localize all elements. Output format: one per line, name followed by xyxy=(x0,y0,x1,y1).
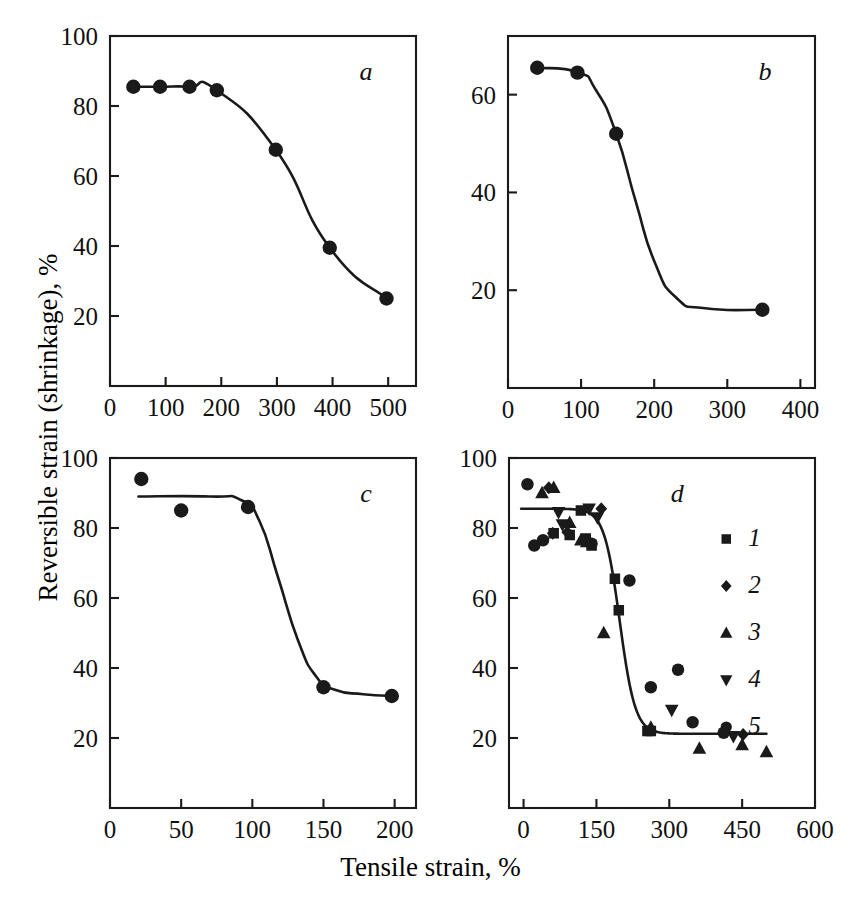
x-ticklabel-a-1: 100 xyxy=(147,394,185,421)
y-ticklabel-c-4: 100 xyxy=(61,445,99,472)
datapoint-a-a-5 xyxy=(323,241,337,255)
datapoint-d-1-6 xyxy=(614,605,625,616)
legend-label-5: 5 xyxy=(748,712,761,739)
figure-canvas: 010020030040050020406080100a010020030040… xyxy=(0,0,861,902)
y-ticklabel-d-3: 80 xyxy=(472,515,497,542)
y-ticklabel-d-2: 60 xyxy=(472,585,497,612)
x-ticklabel-c-3: 150 xyxy=(305,816,343,843)
legend-label-2: 2 xyxy=(748,571,761,598)
datapoint-d-5-7 xyxy=(686,716,698,728)
datapoint-a-a-0 xyxy=(126,80,140,94)
datapoint-d-3-7 xyxy=(693,741,707,753)
datapoint-d-5-3 xyxy=(585,538,597,550)
legend-marker-4 xyxy=(720,675,732,686)
datapoint-b-b-1 xyxy=(570,65,584,79)
y-ticklabel-d-1: 40 xyxy=(472,655,497,682)
x-ticklabel-a-5: 500 xyxy=(369,394,407,421)
datapoint-d-4-0 xyxy=(552,507,566,519)
x-ticklabel-c-2: 100 xyxy=(234,816,272,843)
y-ticklabel-c-0: 20 xyxy=(73,725,98,752)
legend-label-4: 4 xyxy=(748,665,761,692)
y-ticklabel-a-4: 100 xyxy=(61,23,99,50)
legend-label-3: 3 xyxy=(747,618,761,645)
panel-letter-d: d xyxy=(671,479,685,508)
datapoint-d-5-4 xyxy=(623,574,635,586)
datapoint-d-2-4 xyxy=(737,728,749,741)
x-ticklabel-a-4: 400 xyxy=(314,394,352,421)
y-ticklabel-d-4: 100 xyxy=(460,445,498,472)
x-axis-title-text: Tensile strain, % xyxy=(340,852,520,882)
x-ticklabel-b-2: 200 xyxy=(635,396,673,423)
x-ticklabel-d-2: 300 xyxy=(651,816,689,843)
trend-curve-b xyxy=(537,68,762,310)
y-axis-title: Reversible strain (shrinkage), % xyxy=(33,148,64,708)
y-ticklabel-b-2: 60 xyxy=(471,82,496,109)
x-ticklabel-d-4: 600 xyxy=(796,816,834,843)
x-ticklabel-a-3: 300 xyxy=(258,394,296,421)
legend-marker-5 xyxy=(721,721,732,732)
panel-b: 0100200300400204060b xyxy=(471,36,819,423)
datapoint-d-5-5 xyxy=(645,681,657,693)
trend-curve-c xyxy=(138,496,394,696)
x-axis-title: Tensile strain, % xyxy=(0,852,861,883)
x-ticklabel-b-1: 100 xyxy=(562,396,600,423)
datapoint-a-a-3 xyxy=(210,83,224,97)
legend-marker-3 xyxy=(720,627,732,638)
panel-letter-a: a xyxy=(360,57,373,86)
datapoint-d-5-0 xyxy=(521,478,533,490)
datapoint-c-c-1 xyxy=(174,503,188,517)
y-ticklabel-c-2: 60 xyxy=(73,585,98,612)
y-ticklabel-a-0: 20 xyxy=(73,303,98,330)
datapoint-d-5-6 xyxy=(672,664,684,676)
legend-label-1: 1 xyxy=(748,524,761,551)
datapoint-b-b-0 xyxy=(530,61,544,75)
datapoint-c-c-3 xyxy=(316,680,330,694)
datapoint-d-3-8 xyxy=(735,738,749,750)
datapoint-d-5-2 xyxy=(537,534,549,546)
datapoint-b-b-3 xyxy=(755,303,769,317)
datapoint-a-a-4 xyxy=(269,143,283,157)
datapoint-d-1-5 xyxy=(610,573,621,584)
y-ticklabel-a-2: 60 xyxy=(73,163,98,190)
datapoint-d-4-3 xyxy=(591,512,605,524)
plot-frame-b xyxy=(508,36,815,388)
x-ticklabel-a-2: 200 xyxy=(203,394,241,421)
x-ticklabel-b-4: 400 xyxy=(782,396,820,423)
datapoint-a-a-6 xyxy=(379,291,393,305)
legend-marker-2 xyxy=(721,580,732,592)
panel-a: 010020030040050020406080100a xyxy=(61,23,417,421)
panel-d: 015030045060020406080100d12345 xyxy=(460,445,834,843)
x-ticklabel-c-0: 0 xyxy=(104,816,117,843)
datapoint-a-a-2 xyxy=(182,80,196,94)
datapoint-c-c-2 xyxy=(241,500,255,514)
trend-curve-a xyxy=(133,82,386,299)
datapoint-c-c-0 xyxy=(134,472,148,486)
x-ticklabel-a-0: 0 xyxy=(104,394,117,421)
panel-letter-b: b xyxy=(759,57,772,86)
x-ticklabel-b-3: 300 xyxy=(709,396,747,423)
y-ticklabel-b-0: 20 xyxy=(471,277,496,304)
y-ticklabel-a-1: 40 xyxy=(73,233,98,260)
figure-root: 010020030040050020406080100a010020030040… xyxy=(0,0,861,902)
x-ticklabel-c-1: 50 xyxy=(169,816,194,843)
datapoint-a-a-1 xyxy=(153,80,167,94)
x-ticklabel-d-0: 0 xyxy=(517,816,530,843)
panel-letter-c: c xyxy=(360,479,372,508)
y-ticklabel-b-1: 40 xyxy=(471,179,496,206)
datapoint-d-3-9 xyxy=(760,745,774,757)
plot-frame-c xyxy=(110,458,416,808)
y-ticklabel-a-3: 80 xyxy=(73,93,98,120)
legend-marker-1 xyxy=(722,534,732,544)
x-ticklabel-c-4: 200 xyxy=(376,816,414,843)
x-ticklabel-b-0: 0 xyxy=(502,396,515,423)
datapoint-b-b-2 xyxy=(609,127,623,141)
x-ticklabel-d-1: 150 xyxy=(578,816,616,843)
datapoint-c-c-4 xyxy=(385,689,399,703)
y-ticklabel-c-1: 40 xyxy=(73,655,98,682)
y-ticklabel-d-0: 20 xyxy=(472,725,497,752)
datapoint-d-3-5 xyxy=(597,626,611,638)
panel-c: 05010015020020406080100c xyxy=(61,445,417,843)
datapoint-d-4-4 xyxy=(665,705,679,717)
y-ticklabel-c-3: 80 xyxy=(73,515,98,542)
x-ticklabel-d-3: 450 xyxy=(723,816,761,843)
